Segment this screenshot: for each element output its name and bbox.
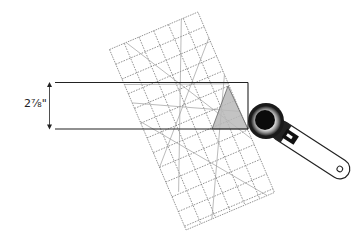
diagram-canvas bbox=[0, 0, 362, 237]
arrow-down-icon bbox=[47, 125, 52, 130]
measurement-label: 2⅞" bbox=[24, 97, 47, 110]
dimension-arrow bbox=[47, 82, 52, 130]
arrow-up-icon bbox=[47, 82, 52, 87]
cutter-blade-hub bbox=[255, 110, 275, 130]
